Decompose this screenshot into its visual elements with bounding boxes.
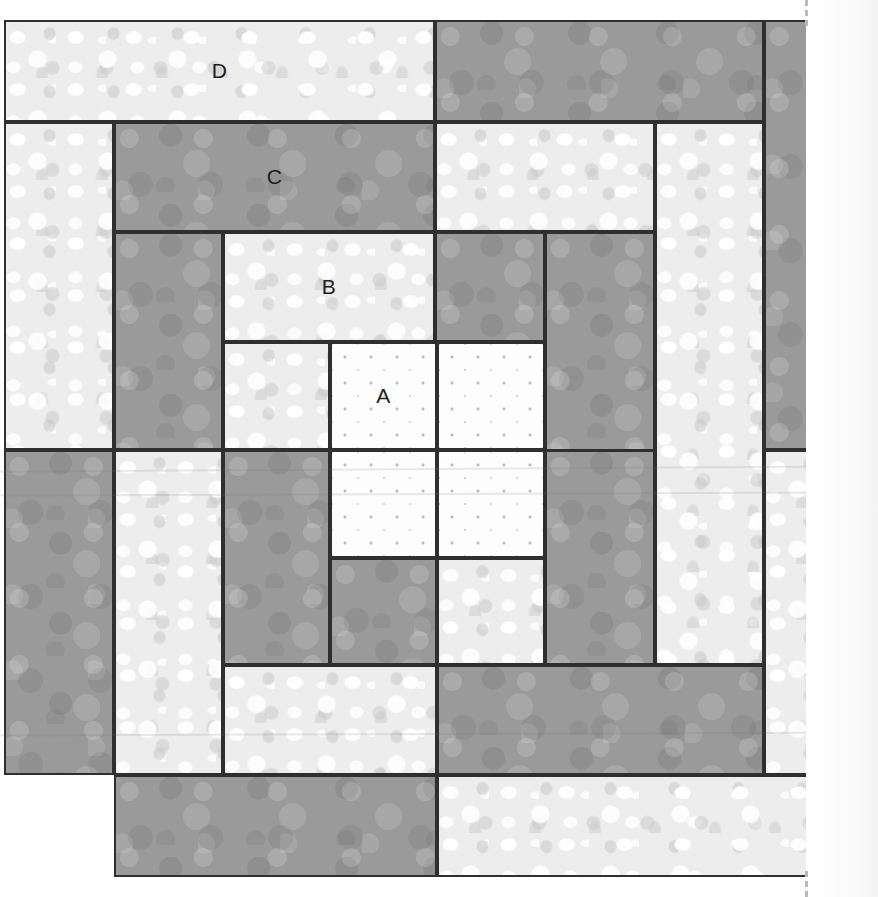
scan-crop-mark-bottom: [805, 871, 808, 897]
quilt-piece-c-col: [114, 232, 223, 450]
quilt-piece-r5-dark: [437, 665, 764, 775]
quilt-piece-left-dark-edge: [4, 450, 114, 775]
quilt-piece-r3-dark-2: [545, 232, 655, 451]
quilt-piece-a-br: [437, 450, 545, 558]
piece-label-b: B: [225, 275, 433, 299]
quilt-piece-d-top: D: [4, 20, 435, 122]
piece-label-c: C: [116, 165, 433, 189]
quilt-piece-a-bl: [330, 450, 437, 558]
quilt-piece-r-dark-col: [545, 450, 655, 665]
quilt-piece-left-light-1: [4, 122, 114, 450]
quilt-piece-b-col: [223, 342, 330, 450]
quilt-piece-r2-light: [435, 122, 655, 232]
quilt-piece-r-light-col-2: [764, 450, 870, 775]
quilt-piece-b-bottom-dark: [330, 558, 437, 665]
quilt-piece-top-right-dark: [764, 20, 870, 450]
quilt-piece-b-bar: B: [223, 232, 435, 342]
quilt-piece-r2-light-col: [655, 122, 764, 665]
quilt-piece-bot-light: [437, 775, 870, 877]
quilt-piece-a-tl: A: [330, 342, 437, 450]
quilt-piece-top-dark-1: [435, 20, 764, 122]
quilt-piece-l-dark-col: [223, 450, 330, 665]
scan-crop-mark-top: [805, 0, 808, 26]
quilt-piece-bot-dark: [114, 775, 437, 877]
piece-label-d: D: [6, 59, 433, 83]
quilt-block-diagram: DCBA: [0, 0, 878, 897]
quilt-piece-r5-light: [223, 665, 437, 775]
quilt-piece-b-bottom-lt: [437, 558, 545, 665]
quilt-piece-l-light-col: [114, 450, 223, 775]
quilt-piece-c-bar: C: [114, 122, 435, 232]
quilt-piece-a-tr: [437, 342, 545, 450]
piece-label-a: A: [332, 384, 435, 408]
quilt-piece-r3-dark-1: [435, 232, 545, 342]
quilt-block: DCBA: [0, 0, 878, 897]
